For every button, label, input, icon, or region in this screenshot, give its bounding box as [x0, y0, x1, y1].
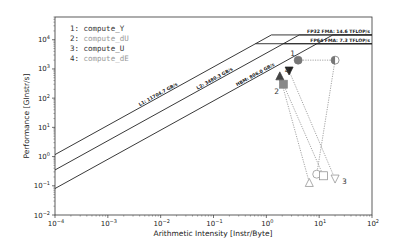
- x-tick-label: 10−4: [48, 218, 64, 228]
- y-axis-ticks: 10−210−1100101102103104: [34, 17, 55, 220]
- legend-item-compute_Y: 1: compute_Y: [70, 24, 125, 33]
- x-tick-label: 102: [367, 218, 379, 228]
- ceiling-label-0: FP32 FMA: 14.6 TFLOP/s: [307, 29, 370, 34]
- legend: 1: compute_Y2: compute_dU3: compute_U4: …: [70, 24, 129, 63]
- y-tick-label: 10−1: [34, 180, 50, 190]
- square-marker-icon: [279, 80, 287, 88]
- point-label-2: 2: [274, 87, 279, 96]
- y-tick-label: 102: [38, 93, 50, 103]
- y-axis-label: Performance [GInstr/s]: [22, 73, 31, 158]
- square-marker-icon: [319, 172, 327, 180]
- y-tick-label: 100: [38, 151, 50, 161]
- y-tick-label: 103: [38, 63, 50, 73]
- x-tick-label: 100: [261, 218, 273, 228]
- circle-marker-icon: [294, 56, 302, 64]
- y-tick-label: 10−2: [34, 210, 50, 220]
- legend-item-compute_dE: 4: compute_dE: [70, 54, 129, 63]
- roofline-chart: 10−410−310−210−1100101102 10−210−1100101…: [0, 0, 395, 248]
- x-tick-label: 10−3: [101, 218, 117, 228]
- x-axis-label: Arithmetic Intensity [Instr/Byte]: [154, 229, 273, 238]
- x-tick-label: 10−1: [206, 218, 222, 228]
- y-tick-label: 101: [38, 122, 50, 132]
- y-tick-label: 104: [38, 34, 50, 44]
- legend-item-compute_U: 3: compute_U: [70, 44, 124, 53]
- point-label-4: 4: [285, 66, 290, 75]
- x-tick-label: 101: [314, 218, 326, 228]
- legend-item-compute_dU: 2: compute_dU: [70, 34, 129, 43]
- x-axis-ticks: 10−410−310−210−1100101102: [48, 215, 379, 228]
- ceiling-label-1: FP64 FMA: 7.3 TFLOP/s: [310, 38, 370, 43]
- point-label-1: 1: [290, 49, 295, 58]
- point-label-3: 3: [342, 177, 347, 186]
- x-tick-label: 10−2: [154, 218, 170, 228]
